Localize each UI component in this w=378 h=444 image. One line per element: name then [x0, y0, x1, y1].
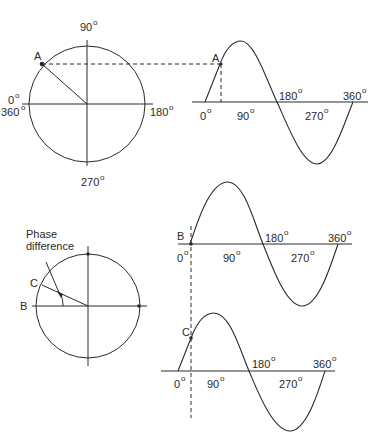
phasor-c-line: [42, 285, 88, 306]
label-360: 360: [328, 232, 346, 244]
label-270: 270: [279, 378, 297, 390]
degree-symbol: o: [347, 228, 352, 237]
degree-symbol: o: [250, 106, 255, 115]
label-90: 90: [237, 110, 249, 122]
label-0: 0: [177, 252, 183, 264]
top-dot: [86, 252, 90, 256]
point-a-label: A: [212, 52, 220, 64]
degree-symbol: o: [93, 18, 98, 27]
phasor-a-line: [42, 64, 87, 104]
point-a-dot: [219, 62, 222, 65]
point-c-label: C: [182, 326, 190, 338]
label-180: 180: [150, 106, 168, 118]
degree-symbol: o: [169, 103, 174, 112]
point-b-label: B: [177, 230, 184, 242]
top-sine-wave: A 0 o 90 o 180 o 270 o 360 o: [192, 41, 368, 164]
degree-symbol: o: [184, 248, 189, 257]
bottom-phasor-circle: Phase difference C B: [20, 228, 147, 366]
label-0: 0: [174, 378, 180, 390]
label-360: 360: [313, 358, 331, 370]
label-270: 270: [291, 252, 309, 264]
label-180: 180: [252, 358, 270, 370]
degree-symbol: o: [298, 374, 303, 383]
degree-symbol: o: [284, 228, 289, 237]
degree-symbol: o: [362, 86, 367, 95]
label-360: 360: [1, 106, 19, 118]
label-270: 270: [305, 110, 323, 122]
label-0: 0: [8, 94, 14, 106]
point-c-label: C: [30, 277, 38, 289]
label-270: 270: [81, 176, 99, 188]
degree-symbol: o: [21, 103, 26, 112]
label-180: 180: [279, 90, 297, 102]
degree-symbol: o: [15, 91, 20, 100]
phase-label: Phase: [26, 228, 57, 240]
waveform-c: C 0 o 90 o 180 o 270 o 360 o: [161, 313, 337, 431]
label-90: 90: [207, 378, 219, 390]
degree-symbol: o: [181, 374, 186, 383]
waveform-b: B 0 o 90 o 180 o 270 o 360 o: [177, 182, 352, 306]
degree-symbol: o: [332, 354, 337, 363]
degree-symbol: o: [220, 374, 225, 383]
degree-symbol: o: [310, 248, 315, 257]
phasor-sine-diagram: A 90 o 0 o 360 o 180 o 270 o A 0 o 90 o …: [0, 0, 378, 444]
top-phasor-circle: A 90 o 0 o 360 o 180 o 270 o: [1, 18, 221, 188]
label-360: 360: [343, 90, 361, 102]
degree-symbol: o: [298, 86, 303, 95]
label-180: 180: [265, 232, 283, 244]
right-dot: [137, 304, 141, 308]
point-a-label: A: [34, 50, 42, 62]
label-90: 90: [223, 252, 235, 264]
degree-symbol: o: [100, 173, 105, 182]
difference-label: difference: [26, 240, 74, 252]
degree-symbol: o: [324, 106, 329, 115]
degree-symbol: o: [207, 106, 212, 115]
label-90: 90: [80, 21, 92, 33]
point-b-label: B: [20, 300, 27, 312]
degree-symbol: o: [271, 354, 276, 363]
sine-curve-c: [178, 313, 325, 431]
degree-symbol: o: [236, 248, 241, 257]
label-0: 0: [200, 110, 206, 122]
